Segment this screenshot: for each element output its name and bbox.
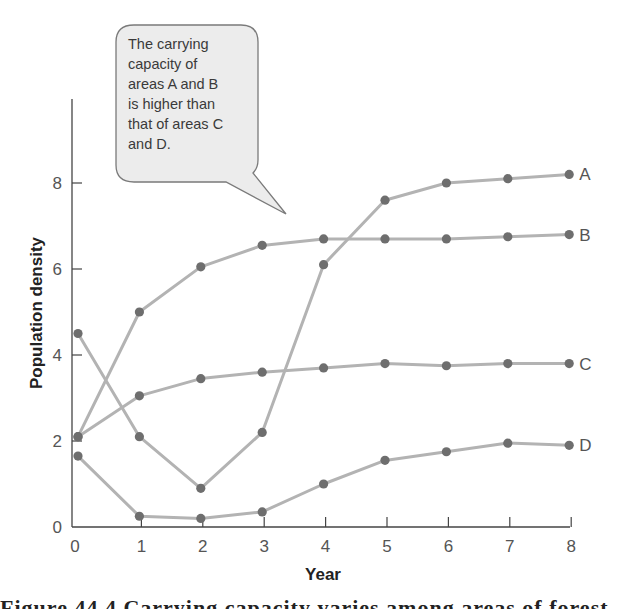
- series-label-d: D: [579, 436, 591, 455]
- data-point: [73, 432, 82, 441]
- data-point: [196, 514, 205, 523]
- data-point: [442, 447, 451, 456]
- data-point: [319, 260, 328, 269]
- data-point: [196, 374, 205, 383]
- series-label-a: A: [579, 165, 591, 184]
- figure-caption: Figure 44.4 Carrying capacity varies amo…: [0, 595, 620, 609]
- y-tick-label: 2: [53, 432, 62, 451]
- data-point: [380, 359, 389, 368]
- data-point: [258, 241, 267, 250]
- data-point: [73, 451, 82, 460]
- series-layer: ABCD: [73, 165, 591, 523]
- data-point: [319, 234, 328, 243]
- data-point: [565, 441, 574, 450]
- callout-line: and D.: [128, 136, 171, 152]
- data-point: [380, 196, 389, 205]
- x-tick-label: 5: [382, 537, 391, 556]
- series-line: [78, 174, 569, 488]
- data-point: [258, 428, 267, 437]
- series-line: [78, 364, 569, 437]
- x-tick-label: 2: [198, 537, 207, 556]
- data-point: [319, 479, 328, 488]
- x-tick-label: 3: [259, 537, 268, 556]
- data-point: [135, 391, 144, 400]
- data-point: [196, 484, 205, 493]
- data-point: [565, 170, 574, 179]
- data-point: [442, 234, 451, 243]
- data-point: [442, 178, 451, 187]
- x-tick-label: 7: [505, 537, 514, 556]
- data-point: [196, 262, 205, 271]
- data-point: [135, 432, 144, 441]
- data-point: [135, 307, 144, 316]
- data-point: [380, 456, 389, 465]
- x-tick-label: 0: [70, 537, 79, 556]
- y-tick-label: 6: [53, 260, 62, 279]
- x-tick-label: 8: [566, 537, 575, 556]
- callout-line: is higher than: [128, 96, 215, 112]
- series-label-c: C: [579, 355, 591, 374]
- y-tick-label: 4: [53, 346, 62, 365]
- data-point: [73, 329, 82, 338]
- data-point: [380, 234, 389, 243]
- data-point: [503, 174, 512, 183]
- series-a: [78, 174, 569, 488]
- y-tick-label: 8: [53, 174, 62, 193]
- data-point: [258, 507, 267, 516]
- x-ticks: 012345678: [70, 517, 576, 556]
- data-point: [319, 363, 328, 372]
- callout-line: The carrying: [128, 36, 209, 52]
- series-c: [78, 364, 569, 437]
- x-tick-label: 6: [444, 537, 453, 556]
- series-label-b: B: [579, 226, 590, 245]
- data-point: [565, 230, 574, 239]
- y-axis-title: Population density: [27, 236, 46, 389]
- x-tick-label: 4: [321, 537, 330, 556]
- callout-line: areas A and B: [128, 76, 218, 92]
- data-point: [135, 512, 144, 521]
- y-tick-label: 0: [53, 518, 62, 537]
- data-point: [565, 359, 574, 368]
- data-point: [442, 361, 451, 370]
- callout-bubble: The carryingcapacity ofareas A and Bis h…: [116, 25, 286, 214]
- x-tick-label: 1: [137, 537, 146, 556]
- line-chart: The carryingcapacity ofareas A and Bis h…: [0, 0, 620, 609]
- data-point: [503, 232, 512, 241]
- callout-line: capacity of: [128, 56, 198, 72]
- figure-caption-text: Figure 44.4 Carrying capacity varies amo…: [0, 597, 620, 609]
- y-ticks: 02468: [53, 174, 82, 537]
- callout-line: that of areas C: [128, 116, 223, 132]
- data-point: [258, 368, 267, 377]
- x-axis-title: Year: [305, 565, 341, 584]
- data-point: [503, 439, 512, 448]
- axes: 02468 012345678 Year Population density: [27, 99, 576, 584]
- data-point: [503, 359, 512, 368]
